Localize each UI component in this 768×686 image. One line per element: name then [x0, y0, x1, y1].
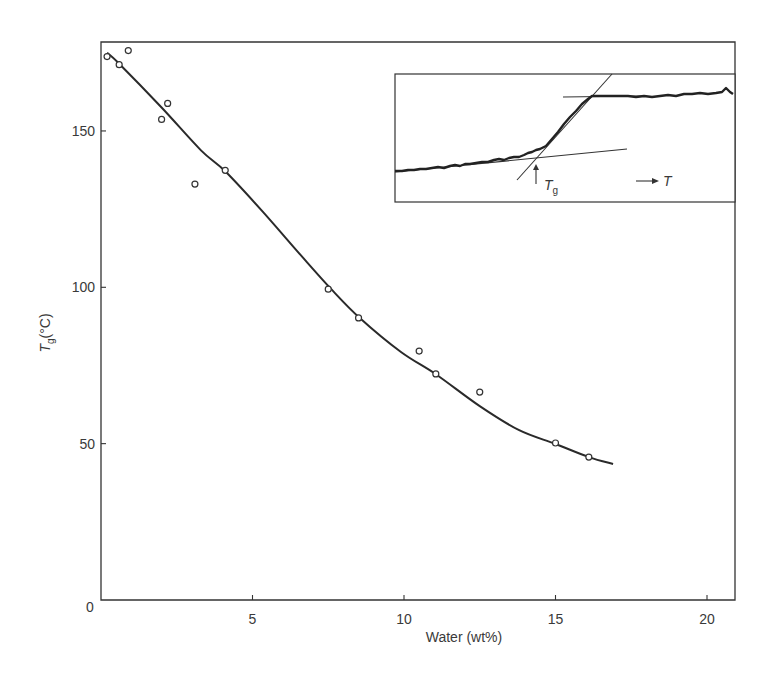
data-point-marker	[586, 454, 592, 460]
data-point-marker	[116, 62, 122, 68]
origin-label: 0	[86, 599, 94, 615]
data-point-marker	[125, 48, 131, 54]
data-point-marker	[192, 181, 198, 187]
data-point-marker	[104, 54, 110, 60]
data-point-marker	[356, 315, 362, 321]
x-axis-title: Water (wt%)	[426, 629, 502, 645]
y-tick-label: 150	[72, 123, 96, 139]
svg-text:Tg(°C): Tg(°C)	[37, 313, 56, 352]
data-point-marker	[325, 286, 331, 292]
data-point-marker	[159, 116, 165, 122]
y-tick-label: 50	[79, 436, 95, 452]
y-axis-title: Tg(°C)	[37, 313, 56, 352]
data-point-marker	[433, 371, 439, 377]
y-tick-label: 100	[72, 279, 96, 295]
x-tick-label: 15	[548, 611, 564, 627]
data-point-marker	[416, 348, 422, 354]
tg-vs-water-chart: 5101520 50100150 0 Water (wt%) Tg(°C)	[0, 0, 768, 686]
data-point-marker	[165, 100, 171, 106]
x-tick-label: 20	[699, 611, 715, 627]
x-tick-label: 10	[396, 611, 412, 627]
y-axis-title-unit: (°C)	[37, 313, 53, 338]
temperature-label: T	[663, 173, 673, 189]
data-point-marker	[477, 389, 483, 395]
data-point-marker	[222, 167, 228, 173]
data-point-marker	[553, 440, 559, 446]
dsc-inset: Tg T	[395, 74, 735, 202]
x-tick-label: 5	[249, 611, 257, 627]
